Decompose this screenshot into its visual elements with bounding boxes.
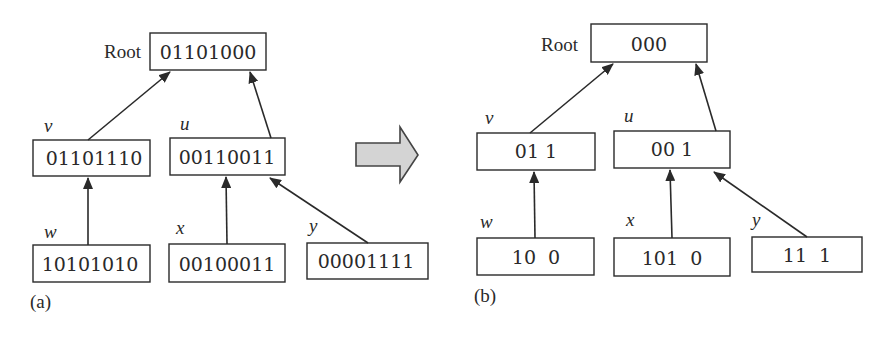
root-label: Root [541, 34, 579, 55]
edge-y-u [714, 172, 807, 237]
tree-compression-diagram: Root 01101000 v 01101110 u 00110011 w 10… [0, 0, 887, 340]
node-w-value: 10101010 [42, 253, 139, 275]
node-y: 11 1 [752, 237, 862, 272]
node-v-value: 01101110 [46, 147, 143, 169]
node-u-label: u [180, 113, 190, 134]
node-w: 10101010 [33, 245, 150, 282]
node-u-value: 00 1 [651, 138, 693, 160]
edge-y-u [270, 178, 368, 243]
node-x-label: x [175, 217, 185, 238]
node-y-label: y [307, 215, 318, 236]
node-u-label: u [624, 105, 634, 126]
edge-x-u [226, 177, 227, 244]
node-y: 00001111 [307, 243, 428, 279]
node-v-label: v [44, 115, 53, 136]
node-y-value: 00001111 [318, 250, 415, 272]
caption-b: (b) [474, 285, 496, 307]
right-arrow-icon [356, 127, 418, 182]
panel-b: Root 000 v 01 1 u 00 1 w 10 0 x 101 0 y [474, 24, 862, 307]
node-x-value: 00100011 [179, 253, 276, 275]
root-value: 01101000 [160, 41, 257, 63]
node-w-value: 10 0 [512, 246, 560, 268]
node-w: 10 0 [477, 238, 594, 275]
node-x: 101 0 [614, 238, 730, 276]
edge-v-root [530, 64, 613, 133]
edge-x-u [670, 170, 672, 238]
node-y-label: y [750, 209, 761, 230]
root-node: 01101000 [150, 33, 266, 70]
edge-w-v [534, 172, 535, 238]
node-v: 01101110 [33, 140, 150, 176]
node-w-label: w [480, 211, 493, 232]
node-v-label: v [485, 107, 494, 128]
node-v-value: 01 1 [515, 140, 557, 162]
node-u: 00 1 [614, 131, 730, 168]
edge-u-root [696, 64, 716, 131]
node-v: 01 1 [477, 133, 595, 170]
root-node: 000 [591, 24, 707, 62]
edge-v-root [88, 72, 170, 140]
panel-a: Root 01101000 v 01101110 u 00110011 w 10… [30, 33, 428, 313]
node-x: 00100011 [169, 244, 285, 282]
node-w-label: w [44, 221, 57, 242]
caption-a: (a) [30, 291, 51, 313]
root-label: Root [104, 41, 142, 62]
node-u-value: 00110011 [179, 146, 276, 168]
node-y-value: 11 1 [783, 244, 831, 266]
edge-u-root [250, 72, 271, 138]
node-x-value: 101 0 [642, 247, 702, 269]
node-x-label: x [625, 209, 635, 230]
node-u: 00110011 [170, 138, 285, 175]
root-value: 000 [631, 33, 667, 55]
